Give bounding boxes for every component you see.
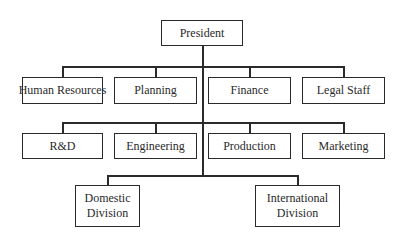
connector-international: [297, 175, 299, 185]
connector-engineering: [155, 122, 157, 133]
human-resources-label: Human Resources: [19, 83, 107, 98]
legal-staff-label: Legal Staff: [317, 83, 370, 98]
international-division-line1: International: [267, 191, 328, 206]
international-division-line2: Division: [277, 206, 318, 221]
planning-box: Planning: [114, 77, 197, 104]
engineering-label: Engineering: [126, 139, 185, 154]
finance-label: Finance: [231, 83, 269, 98]
production-box: Production: [208, 133, 291, 159]
engineering-box: Engineering: [114, 133, 197, 159]
rd-label: R&D: [49, 139, 75, 154]
function-row-bar: [62, 122, 344, 124]
org-chart: President Human Resources Planning Finan…: [0, 0, 404, 245]
legal-staff-box: Legal Staff: [302, 77, 385, 104]
planning-label: Planning: [134, 83, 177, 98]
connector-marketing: [343, 122, 345, 133]
connector-rd: [62, 122, 64, 133]
rd-box: R&D: [22, 133, 103, 159]
president-box: President: [161, 20, 243, 46]
finance-box: Finance: [208, 77, 291, 104]
president-label: President: [180, 26, 225, 41]
domestic-division-box: Domestic Division: [75, 185, 140, 227]
production-label: Production: [223, 139, 276, 154]
domestic-division-line1: Domestic: [85, 191, 131, 206]
divisions-bar: [107, 175, 298, 177]
domestic-division-line2: Division: [87, 206, 128, 221]
connector-domestic: [107, 175, 109, 185]
human-resources-box: Human Resources: [22, 77, 103, 104]
international-division-box: International Division: [255, 185, 340, 227]
trunk-line: [202, 45, 204, 176]
marketing-label: Marketing: [319, 139, 369, 154]
connector-production: [249, 122, 251, 133]
staff-row-bar: [62, 66, 344, 68]
marketing-box: Marketing: [302, 133, 385, 159]
